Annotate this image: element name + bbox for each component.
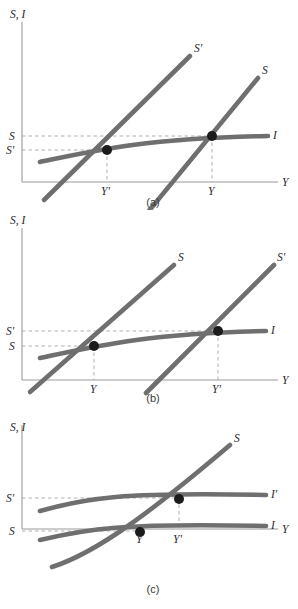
panel-b: S, I Y S' S Y Y' S S' I (b) <box>0 200 298 405</box>
panel-c-tick-S: S <box>9 525 15 537</box>
panel-b-tick-Y-prime: Y' <box>212 383 221 395</box>
panel-b-tick-S: S <box>9 340 15 352</box>
panel-c-tick-S-prime: S' <box>6 492 15 504</box>
panel-b-curve-label-I: I <box>270 324 276 336</box>
panel-a-tick-S: S <box>9 130 15 142</box>
panel-a-tick-S-prime: S' <box>6 144 15 156</box>
panel-a-curve-S-prime <box>44 56 190 200</box>
panel-a-equilibrium-dot-original <box>207 131 217 141</box>
panel-c: S, I Y S' S Y Y' S I' I (c) <box>0 403 298 609</box>
panel-a-curve-label-I: I <box>272 129 278 141</box>
panel-c-y-axis-label: S, I <box>10 421 27 434</box>
panel-a: S, I Y S S' Y' Y S' S I (a) <box>0 0 298 210</box>
panel-a-tick-Y-prime: Y' <box>101 185 110 197</box>
panel-a-curve-label-S: S <box>262 64 268 76</box>
panel-c-curve-label-S: S <box>234 432 240 444</box>
panel-c-curve-S <box>52 445 230 567</box>
panel-b-y-axis-label: S, I <box>10 214 27 227</box>
panel-b-equilibrium-dot-original <box>89 341 99 351</box>
panel-c-caption: (c) <box>147 583 160 595</box>
panel-b-tick-S-prime: S' <box>6 325 15 337</box>
panel-b-curve-label-S: S <box>178 251 184 263</box>
panel-b-curve-S <box>30 265 174 392</box>
panel-a-y-axis-label: S, I <box>10 8 27 21</box>
economics-figure: S, I Y S S' Y' Y S' S I (a) <box>0 0 298 609</box>
panel-c-x-axis-label: Y <box>282 523 290 535</box>
panel-b-equilibrium-dot-new <box>213 326 223 336</box>
panel-a-tick-Y: Y <box>208 185 216 197</box>
panel-a-equilibrium-dot-new <box>102 145 112 155</box>
panel-c-tick-Y-prime: Y' <box>173 533 182 545</box>
panel-a-x-axis-label: Y <box>282 176 290 188</box>
panel-b-x-axis-label: Y <box>282 374 290 386</box>
panel-a-curve-label-S-prime: S' <box>194 42 203 54</box>
panel-a-curve-S <box>148 78 258 210</box>
panel-c-equilibrium-dot-new <box>174 494 184 504</box>
panel-b-curve-label-S-prime: S' <box>277 251 286 263</box>
panel-b-tick-Y: Y <box>90 383 98 395</box>
panel-c-curve-I <box>40 525 266 540</box>
panel-c-curve-label-I-prime: I' <box>270 488 278 500</box>
panel-a-curve-I <box>40 136 268 162</box>
